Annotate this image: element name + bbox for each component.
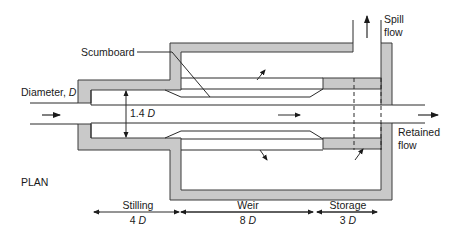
inner-diameter-value: 1.4 [130, 107, 145, 119]
section-storage: Storage 3 D [323, 198, 373, 228]
section-stilling-name: Stilling [118, 198, 158, 213]
spill-flow-line2: flow [384, 26, 404, 39]
scumboard-label: Scumboard [81, 46, 135, 58]
plan-view-label: PLAN [21, 176, 48, 188]
section-weir-value: 8 [240, 214, 246, 226]
section-weir-symbol: D [249, 214, 257, 226]
section-stilling-value: 4 [130, 214, 136, 226]
section-storage-name: Storage [323, 198, 373, 213]
inner-diameter-symbol: D [148, 107, 156, 119]
retained-flow-line1: Retained [398, 126, 440, 139]
diameter-text: Diameter, [21, 86, 66, 98]
chamber-walls-bottom [78, 123, 392, 200]
section-stilling-symbol: D [139, 214, 147, 226]
spill-flow-label: Spill flow [384, 13, 404, 39]
section-weir: Weir 8 D [228, 198, 268, 228]
retained-flow-line2: flow [398, 139, 440, 152]
diameter-symbol: D [69, 86, 77, 98]
section-storage-symbol: D [349, 214, 357, 226]
diameter-label: Diameter, D [21, 86, 76, 98]
inner-diameter-label: 1.4 D [130, 107, 155, 119]
section-storage-value: 3 [340, 214, 346, 226]
storage-return-arrow-icon [355, 149, 363, 160]
retained-flow-label: Retained flow [398, 126, 440, 152]
overflow-down-arrow-icon [260, 150, 267, 160]
section-weir-name: Weir [228, 198, 268, 213]
spill-flow-line1: Spill [384, 13, 404, 26]
section-stilling: Stilling 4 D [118, 198, 158, 228]
